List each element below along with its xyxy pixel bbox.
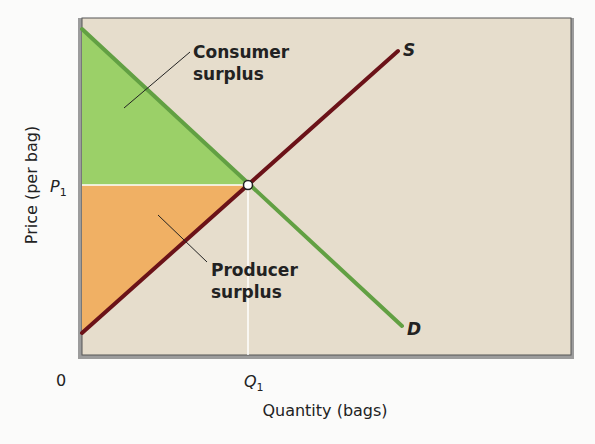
- supply-label: S: [403, 40, 415, 60]
- consumer-surplus-label-line1: Consumer: [193, 42, 290, 62]
- origin-label: 0: [56, 371, 66, 390]
- p1-tick-label: P1: [50, 177, 67, 199]
- consumer-surplus-label-line2: surplus: [193, 64, 264, 84]
- q1-tick-label: Q1: [244, 372, 264, 394]
- y-axis-title: Price (per bag): [22, 126, 41, 244]
- producer-surplus-label-line2: surplus: [211, 282, 282, 302]
- demand-label: D: [407, 319, 421, 339]
- consumer-producer-surplus-chart: Consumer surplus Producer surplus S D P1…: [0, 0, 595, 444]
- equilibrium-point: [244, 181, 253, 190]
- producer-surplus-label-line1: Producer: [211, 260, 298, 280]
- x-axis-title: Quantity (bags): [262, 401, 387, 420]
